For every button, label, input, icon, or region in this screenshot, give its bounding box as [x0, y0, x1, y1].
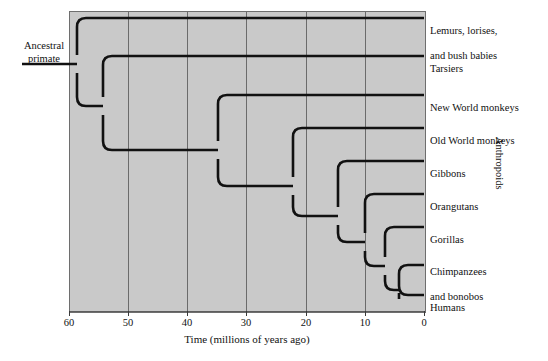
- taxon-label-lemurs-line1: Lemurs, lorises,: [430, 25, 497, 38]
- branch-lemurs: [77, 18, 424, 55]
- taxon-label-orangutans: Orangutans: [430, 188, 478, 226]
- tick-label-0: 0: [409, 317, 439, 329]
- tick-mark-10: [365, 311, 366, 316]
- tick-mark-0: [424, 311, 425, 316]
- branch-n3-to-n4: [218, 159, 293, 186]
- branch-gibbons: [338, 161, 424, 207]
- tick-mark-60: [69, 311, 70, 316]
- taxon-label-new-world-monkeys-line1: New World monkeys: [430, 102, 519, 115]
- tick-label-30: 30: [231, 317, 261, 329]
- tick-mark-40: [187, 311, 188, 316]
- ancestral-primate-label: Ancestral primate: [14, 40, 74, 65]
- taxon-label-gorillas-line1: Gorillas: [430, 234, 464, 247]
- tick-label-20: 20: [291, 317, 321, 329]
- tick-label-10: 10: [350, 317, 380, 329]
- tick-mark-30: [246, 311, 247, 316]
- branch-humans: [399, 281, 424, 295]
- taxon-label-orangutans-line1: Orangutans: [430, 201, 478, 214]
- branch-n4-to-n5: [293, 195, 338, 216]
- taxon-label-gibbons-line1: Gibbons: [430, 168, 466, 181]
- branch-n1-to-n2: [77, 73, 103, 106]
- tick-label-40: 40: [172, 317, 202, 329]
- taxon-label-chimpanzees-line1: Chimpanzees: [430, 266, 487, 279]
- anthropoids-clade-label: Anthropoids: [494, 137, 505, 190]
- branch-n7-to-n8: [385, 275, 399, 290]
- branch-tarsiers: [103, 56, 424, 97]
- branch-n2-to-n3: [103, 115, 218, 150]
- branch-n6-to-n7: [365, 251, 385, 266]
- tick-mark-50: [128, 311, 129, 316]
- tick-label-50: 50: [113, 317, 143, 329]
- taxon-label-tarsiers-line1: Tarsiers: [430, 63, 463, 76]
- x-axis-line: [69, 311, 425, 312]
- branch-chimpanzees: [399, 265, 424, 281]
- taxon-label-new-world-monkeys: New World monkeys: [430, 89, 519, 127]
- branch-gorillas: [385, 227, 424, 257]
- x-axis-title: Time (millions of years ago): [69, 333, 425, 345]
- tick-label-60: 60: [54, 317, 84, 329]
- tick-mark-20: [306, 311, 307, 316]
- taxon-label-humans-line1: Humans: [430, 302, 465, 315]
- taxon-label-gibbons: Gibbons: [430, 155, 466, 193]
- ancestral-primate-line2: primate: [14, 53, 74, 66]
- branch-n5-to-n6: [338, 225, 365, 242]
- ancestral-primate-line1: Ancestral: [14, 40, 74, 53]
- phylogenetic-tree-figure: Ancestral primate Lemurs, lorises, and b…: [0, 0, 548, 361]
- branch-old-world-monkeys: [293, 128, 424, 177]
- taxon-label-tarsiers: Tarsiers: [430, 50, 463, 88]
- branch-new-world-monkeys: [218, 95, 424, 141]
